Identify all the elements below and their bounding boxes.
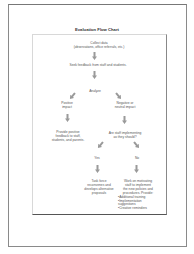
node-negative-impact: Negative or neutral impact	[105, 102, 145, 110]
node-provide-feedback: Provide positive feedback to staff, stud…	[46, 131, 90, 143]
node-collect-data: Collect data (observations, office refer…	[62, 42, 136, 50]
arrow-down-icon	[134, 165, 139, 173]
node-text: proposals	[78, 192, 120, 196]
node-text: impact	[52, 106, 82, 110]
bullet-item: Creative reminders	[118, 207, 158, 211]
node-text: (observations, office referrals, etc.)	[62, 46, 136, 50]
node-text: students, and parents.	[46, 139, 90, 143]
node-staff-implementing-question: Are staff implementing as they should?	[100, 132, 150, 140]
chart-title: Evaluation Flow Chart	[0, 27, 194, 32]
bullet-list: Additional training Implementation sugge…	[118, 196, 158, 212]
arrow-down-icon	[95, 165, 100, 173]
label-yes: Yes	[89, 157, 105, 161]
node-positive-impact: Positive impact	[52, 102, 82, 110]
label-no: No	[129, 157, 145, 161]
node-work-on-motivating: Work on motivating staff to implement th…	[118, 180, 158, 211]
node-analyze: Analyze	[80, 90, 110, 94]
arrow-down-icon	[92, 71, 97, 79]
arrow-down-icon	[65, 114, 70, 122]
arrow-down-icon	[122, 116, 127, 124]
node-text: as they should?	[100, 136, 150, 140]
node-text: neutral impact	[105, 106, 145, 110]
node-task-force: Task force reconvenes and develops alter…	[78, 180, 120, 196]
arrow-down-icon	[92, 52, 97, 60]
node-seek-feedback: Seek feedback from staff and students.	[50, 64, 146, 68]
